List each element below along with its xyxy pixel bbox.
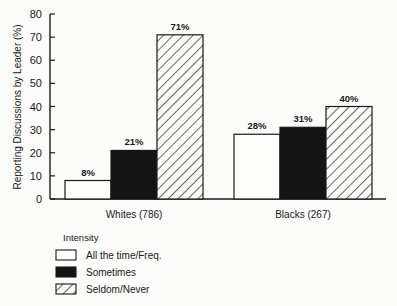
y-tick-label: 30 xyxy=(30,124,42,136)
bar-value-label: 28% xyxy=(247,120,267,131)
bar-chart: 01020304050607080Reporting Discussions b… xyxy=(0,0,397,306)
y-tick-label: 50 xyxy=(30,77,42,89)
bar-seldom-never xyxy=(157,35,203,199)
bar-value-label: 71% xyxy=(170,21,190,32)
legend-title: Intensity xyxy=(63,232,99,243)
bar-value-label: 8% xyxy=(81,167,95,178)
bars: 8%21%71%Whites (786)28%31%40%Blacks (267… xyxy=(65,21,372,220)
legend-swatch xyxy=(56,267,76,277)
y-tick-label: 0 xyxy=(36,193,42,205)
bar-all-the-time-freq- xyxy=(65,181,111,200)
bar-sometimes xyxy=(111,150,157,199)
legend-entry-label: All the time/Freq. xyxy=(86,250,162,261)
bar-sometimes xyxy=(280,127,326,199)
legend: IntensityAll the time/Freq.SometimesSeld… xyxy=(56,232,162,295)
y-tick-label: 80 xyxy=(30,8,42,20)
bar-value-label: 31% xyxy=(293,113,313,124)
y-axis-label: Reporting Discussions by Leader (%) xyxy=(12,24,23,189)
legend-swatch xyxy=(56,250,76,260)
bar-value-label: 40% xyxy=(339,93,359,104)
bar-value-label: 21% xyxy=(124,136,144,147)
x-category-label: Blacks (267) xyxy=(275,209,331,220)
y-tick-label: 10 xyxy=(30,170,42,182)
legend-entry-label: Sometimes xyxy=(86,267,136,278)
y-tick-label: 20 xyxy=(30,147,42,159)
bar-all-the-time-freq- xyxy=(234,134,280,199)
bar-seldom-never xyxy=(326,107,372,200)
y-tick-label: 70 xyxy=(30,31,42,43)
y-tick-label: 40 xyxy=(30,101,42,113)
legend-entry-label: Seldom/Never xyxy=(86,284,150,295)
x-category-label: Whites (786) xyxy=(106,209,163,220)
legend-swatch xyxy=(56,284,76,294)
y-tick-label: 60 xyxy=(30,54,42,66)
